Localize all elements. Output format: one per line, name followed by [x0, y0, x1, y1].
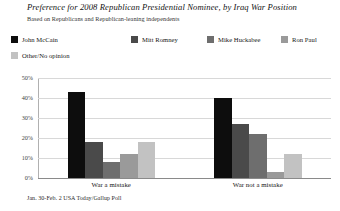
- legend-item[interactable]: John McCain: [11, 36, 58, 43]
- y-axis-tick-label: 30%: [22, 115, 33, 121]
- plot-area: [38, 78, 331, 178]
- bar: [120, 154, 138, 178]
- y-axis-tick-label: 20%: [22, 135, 33, 141]
- legend-item[interactable]: Mitt Romney: [131, 36, 178, 43]
- legend-item[interactable]: Ron Paul: [281, 36, 317, 43]
- y-axis-tick-labels: 50%40%30%20%10%0%: [8, 78, 33, 179]
- chart-title: Preference for 2008 Republican President…: [27, 2, 297, 12]
- bar: [138, 142, 156, 178]
- gridline: [38, 78, 331, 79]
- bar: [214, 98, 232, 178]
- bar: [85, 142, 103, 178]
- bar: [68, 92, 86, 178]
- x-axis-group-label: War a mistake: [38, 181, 185, 188]
- legend-swatch-icon: [207, 36, 214, 43]
- bar-chart-figure: Preference for 2008 Republican President…: [0, 0, 340, 211]
- x-axis-baseline: [38, 178, 331, 179]
- legend-swatch-icon: [281, 36, 288, 43]
- x-axis-group-label: War not a mistake: [185, 181, 332, 188]
- y-axis-tick-label: 50%: [22, 75, 33, 81]
- y-axis-tick-label: 10%: [22, 155, 33, 161]
- chart-source-note: Jan. 30-Feb. 2 USA Today/Gallup Poll: [27, 195, 121, 201]
- y-axis-spine: [38, 78, 39, 179]
- bar: [284, 154, 302, 178]
- y-axis-tick-label: 0%: [25, 175, 33, 181]
- legend-item-label: Other/No opinion: [22, 52, 70, 59]
- legend-item[interactable]: Mike Huckabee: [207, 36, 261, 43]
- chart-legend: John McCainMitt RomneyMike HuckabeeRon P…: [11, 36, 331, 64]
- legend-swatch-icon: [11, 52, 18, 59]
- y-axis-tick-label: 40%: [22, 95, 33, 101]
- legend-swatch-icon: [11, 36, 18, 43]
- bar: [249, 134, 267, 178]
- legend-item-label: Mike Huckabee: [218, 36, 261, 43]
- legend-item-label: John McCain: [22, 36, 58, 43]
- bar: [232, 124, 250, 178]
- bar: [103, 162, 121, 178]
- legend-swatch-icon: [131, 36, 138, 43]
- legend-item-label: Mitt Romney: [142, 36, 178, 43]
- legend-item-label: Ron Paul: [292, 36, 317, 43]
- legend-item[interactable]: Other/No opinion: [11, 52, 70, 59]
- bar: [267, 172, 285, 178]
- chart-subtitle: Based on Republicans and Republican-lean…: [27, 15, 179, 22]
